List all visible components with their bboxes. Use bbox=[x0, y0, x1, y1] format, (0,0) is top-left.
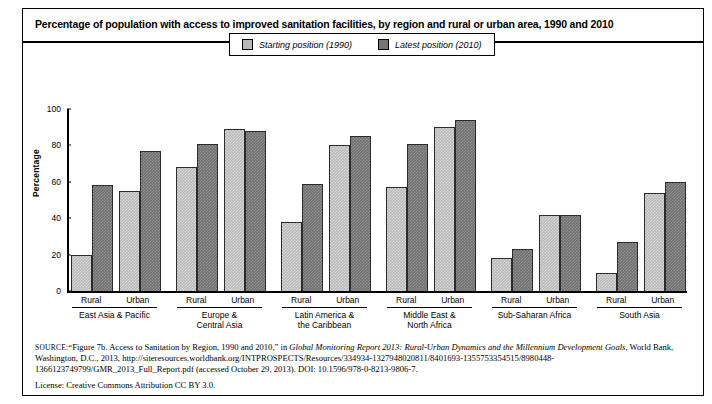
bar-start bbox=[71, 255, 92, 291]
bar-pair-urban bbox=[644, 109, 688, 291]
bar-latest bbox=[92, 185, 113, 291]
bar-latest bbox=[302, 184, 323, 291]
bar-pair-rural bbox=[596, 109, 640, 291]
figure-frame: Percentage of population with access to … bbox=[22, 8, 704, 396]
x-sublabel-urban: Urban bbox=[535, 295, 582, 306]
bar-group bbox=[69, 109, 162, 291]
license-note: License: Creative Commons Attribution CC… bbox=[35, 380, 691, 391]
y-axis-ticks: 020406080100 bbox=[37, 109, 67, 291]
y-tick-label-20: 20 bbox=[37, 251, 61, 259]
x-sublabel-rural: Rural bbox=[68, 295, 115, 306]
bar-pair-urban bbox=[434, 109, 478, 291]
legend-item-starting-position: Starting position (1990) bbox=[242, 39, 352, 50]
bar-start bbox=[119, 191, 140, 291]
x-group-name: Europe & bbox=[173, 310, 266, 320]
y-tick-label-60: 60 bbox=[37, 178, 61, 186]
x-group-label: RuralUrbanLatin America &the Caribbean bbox=[278, 295, 371, 330]
bar-pair-rural bbox=[71, 109, 115, 291]
bar-start bbox=[596, 273, 617, 291]
y-tick-label-100: 100 bbox=[37, 105, 61, 113]
bar-start bbox=[386, 187, 407, 291]
x-group-label: RuralUrbanEast Asia & Pacific bbox=[68, 295, 161, 320]
x-group-name: Sub-Saharan Africa bbox=[488, 310, 581, 320]
bar-pair-urban bbox=[539, 109, 583, 291]
bar-start bbox=[281, 222, 302, 291]
bar-group bbox=[279, 109, 372, 291]
bar-latest bbox=[512, 249, 533, 291]
y-tick-label-40: 40 bbox=[37, 214, 61, 222]
x-group-rule bbox=[72, 307, 157, 308]
source-title-italic: Global Monitoring Report 2013: Rural-Urb… bbox=[289, 342, 625, 352]
page-title: Percentage of population with access to … bbox=[35, 18, 690, 31]
square-swatch-light-icon bbox=[242, 39, 253, 50]
bar-group bbox=[384, 109, 477, 291]
bar-latest bbox=[350, 136, 371, 291]
bar-start bbox=[539, 215, 560, 291]
square-swatch-dark-icon bbox=[378, 39, 389, 50]
y-tick-label-0: 0 bbox=[37, 287, 61, 295]
x-group-name: Latin America & bbox=[278, 310, 371, 320]
bar-start bbox=[644, 193, 665, 291]
bar-start bbox=[176, 167, 197, 291]
x-group-label: RuralUrbanEurope &Central Asia bbox=[173, 295, 266, 330]
bar-start bbox=[224, 129, 245, 291]
x-group-name: East Asia & Pacific bbox=[68, 310, 161, 320]
bar-pair-urban bbox=[224, 109, 268, 291]
bar-latest bbox=[197, 144, 218, 291]
x-group-name: South Asia bbox=[593, 310, 686, 320]
bar-pair-urban bbox=[329, 109, 373, 291]
x-sublabel-urban: Urban bbox=[325, 295, 372, 306]
x-group-label: RuralUrbanSouth Asia bbox=[593, 295, 686, 320]
bars-container bbox=[69, 109, 687, 291]
x-sublabel-rural: Rural bbox=[383, 295, 430, 306]
bar-latest bbox=[560, 215, 581, 291]
bar-latest bbox=[665, 182, 686, 291]
y-tick-label-80: 80 bbox=[37, 141, 61, 149]
bar-latest bbox=[455, 120, 476, 291]
x-group-label: RuralUrbanSub-Saharan Africa bbox=[488, 295, 581, 320]
x-sublabel-urban: Urban bbox=[115, 295, 162, 306]
legend-label-latest-position: Latest position (2010) bbox=[395, 40, 482, 50]
plot-area: Percentage 020406080100 bbox=[23, 65, 705, 317]
x-group-name: Middle East & bbox=[383, 310, 476, 320]
bar-pair-rural bbox=[491, 109, 535, 291]
x-group-label: RuralUrbanMiddle East &North Africa bbox=[383, 295, 476, 330]
bar-latest bbox=[407, 144, 428, 291]
bar-group bbox=[174, 109, 267, 291]
source-note: SOURCE:“Figure 7b. Access to Sanitation … bbox=[35, 342, 691, 376]
bar-latest bbox=[140, 151, 161, 291]
bar-latest bbox=[245, 131, 266, 291]
x-group-rule bbox=[177, 307, 262, 308]
x-sublabel-rural: Rural bbox=[593, 295, 640, 306]
x-axis-line bbox=[67, 291, 687, 293]
source-label: SOURCE: bbox=[35, 343, 68, 352]
legend-label-starting-position: Starting position (1990) bbox=[259, 40, 352, 50]
legend-item-latest-position: Latest position (2010) bbox=[378, 39, 482, 50]
x-sublabel-rural: Rural bbox=[278, 295, 325, 306]
x-group-rule bbox=[282, 307, 367, 308]
bar-pair-urban bbox=[119, 109, 163, 291]
bar-start bbox=[329, 145, 350, 291]
source-text-1: “Figure 7b. Access to Sanitation by Regi… bbox=[68, 342, 289, 352]
bar-start bbox=[491, 258, 512, 291]
x-sublabel-rural: Rural bbox=[173, 295, 220, 306]
x-sublabel-urban: Urban bbox=[220, 295, 267, 306]
bar-start bbox=[434, 127, 455, 291]
x-sublabel-urban: Urban bbox=[640, 295, 687, 306]
bar-latest bbox=[617, 242, 638, 291]
bar-pair-rural bbox=[386, 109, 430, 291]
bar-pair-rural bbox=[281, 109, 325, 291]
bar-group bbox=[489, 109, 582, 291]
bar-group bbox=[594, 109, 687, 291]
x-sublabel-urban: Urban bbox=[430, 295, 477, 306]
x-group-rule bbox=[492, 307, 577, 308]
chart-legend: Starting position (1990) Latest position… bbox=[229, 33, 495, 56]
x-group-rule bbox=[387, 307, 472, 308]
bar-pair-rural bbox=[176, 109, 220, 291]
x-group-name: the Caribbean bbox=[278, 320, 371, 330]
x-group-name: Central Asia bbox=[173, 320, 266, 330]
x-group-name: North Africa bbox=[383, 320, 476, 330]
x-axis-labels: RuralUrbanEast Asia & PacificRuralUrbanE… bbox=[68, 295, 688, 343]
x-group-rule bbox=[597, 307, 682, 308]
x-sublabel-rural: Rural bbox=[488, 295, 535, 306]
